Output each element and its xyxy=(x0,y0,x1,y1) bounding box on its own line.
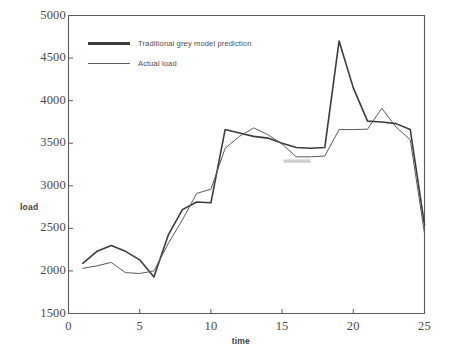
y-axis-title: load xyxy=(20,202,38,212)
legend xyxy=(88,44,130,64)
chart-figure: 1500200025003000350040004500500005101520… xyxy=(0,0,452,354)
x-axis-tick-label: 0 xyxy=(49,319,89,334)
y-axis-tick-label: 2500 xyxy=(22,220,66,235)
series-line-actual xyxy=(83,108,425,273)
y-axis-tick-label: 2000 xyxy=(22,263,66,278)
y-axis-tick-label: 3500 xyxy=(22,135,66,150)
x-axis-tick-label: 20 xyxy=(333,319,373,334)
axis-frame xyxy=(69,16,425,314)
chart-plot-area xyxy=(0,0,452,354)
axis-ticks xyxy=(69,16,425,314)
legend-label-actual: Actual load xyxy=(138,59,177,68)
y-axis-tick-label: 4500 xyxy=(22,50,66,65)
x-axis-tick-label: 25 xyxy=(405,319,445,334)
y-axis-tick-label: 4000 xyxy=(22,93,66,108)
y-axis-tick-label: 5000 xyxy=(22,8,66,23)
x-axis-tick-label: 15 xyxy=(262,319,302,334)
x-axis-tick-label: 5 xyxy=(120,319,160,334)
x-axis-tick-label: 10 xyxy=(191,319,231,334)
y-axis-tick-label: 3000 xyxy=(22,178,66,193)
series-line-prediction xyxy=(83,41,425,277)
x-axis-title: time xyxy=(232,336,250,346)
legend-label-prediction: Traditional grey model prediction xyxy=(138,39,251,48)
